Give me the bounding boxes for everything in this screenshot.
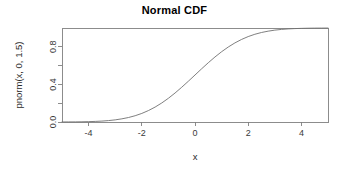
y-axis-ticks — [58, 47, 62, 122]
x-axis-ticks — [89, 122, 302, 126]
y-axis-tick-labels: 0.00.40.8 — [48, 41, 58, 129]
plot-area: -4-2024 0.00.40.8 x pnorm(x, 0, 1.5) — [0, 0, 349, 171]
x-axis-tick-labels: -4-2024 — [85, 128, 304, 138]
x-tick-label: 0 — [192, 128, 197, 138]
y-tick-label: 0.8 — [48, 41, 58, 54]
cdf-curve-line — [62, 28, 328, 122]
x-axis-title: x — [193, 151, 198, 162]
y-tick-label: 0.0 — [48, 116, 58, 129]
x-tick-label: -2 — [138, 128, 146, 138]
x-tick-label: -4 — [85, 128, 93, 138]
y-tick-label: 0.4 — [48, 78, 58, 91]
x-tick-label: 4 — [299, 128, 304, 138]
y-axis-title: pnorm(x, 0, 1.5) — [13, 41, 24, 108]
x-tick-label: 2 — [246, 128, 251, 138]
chart-canvas: Normal CDF -4-2024 0.00.40.8 x pnorm(x, … — [0, 0, 349, 171]
